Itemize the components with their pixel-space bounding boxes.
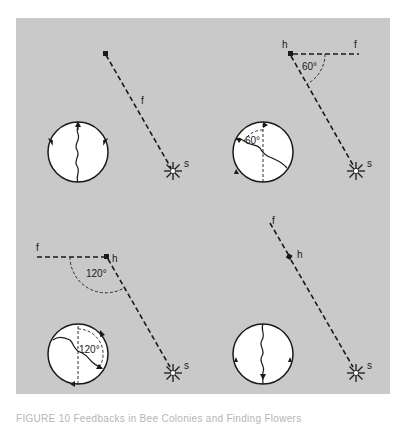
panel-bottom-right: f h s [233,215,372,384]
sun-label: s [367,158,372,169]
food-label: f [36,242,39,253]
comb-dance-diagram: 60° [233,122,293,182]
food-direction-line [270,223,288,254]
hive-label: h [297,249,303,260]
hive-label: h [112,253,118,264]
food-label: f [272,215,275,226]
hive-marker-icon [286,253,293,260]
sun-label: s [367,360,372,371]
comb-dance-diagram: 120° [48,324,108,387]
panel-top-left: f s [48,51,189,182]
hive-marker-icon [288,51,293,56]
comb-dance-diagram [48,122,108,182]
food-label: f [354,39,357,50]
sun-label: s [184,360,189,371]
figure-caption: FIGURE 10 Feedbacks in Bee Colonies and … [16,413,396,424]
hive-marker-icon [103,51,108,56]
hive-marker-icon [104,254,109,259]
sun-icon [164,162,182,180]
sun-direction-line [291,56,353,165]
hive-label: h [282,39,288,50]
food-label: f [141,95,144,106]
food-direction-line [106,55,171,168]
panel-top-right: h f 60° s 60° [233,39,372,182]
sun-direction-line [108,259,170,367]
sun-icon [347,162,365,180]
panel-bottom-left: f h 120° s 120° [36,242,189,387]
waggle-dance-figure: f s h f 60° [0,0,411,425]
sun-icon [164,364,182,382]
angle-label: 120° [86,268,107,279]
comb-dance-diagram [233,324,293,384]
sun-icon [347,364,365,382]
sun-direction-line [291,260,353,367]
sun-label: s [184,158,189,169]
return-arrow-top-icon [100,330,105,337]
angle-label: 60° [302,61,317,72]
